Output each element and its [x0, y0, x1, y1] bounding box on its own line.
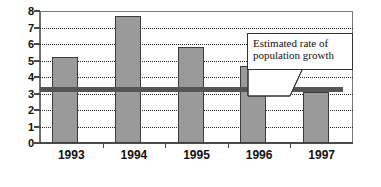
- bar-chart: 012345678 Estimated rate of population g…: [0, 0, 381, 187]
- callout-box: Estimated rate of population growth: [247, 33, 353, 70]
- callout-pointer-icon: [0, 0, 381, 187]
- callout-text-line-1: Estimated rate of: [253, 37, 347, 49]
- callout-text-line-2: population growth: [253, 49, 347, 61]
